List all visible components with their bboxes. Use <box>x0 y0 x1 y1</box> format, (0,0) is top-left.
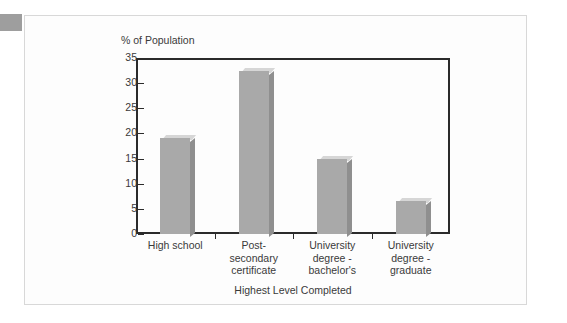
y-axis-label: % of Population <box>121 34 195 46</box>
x-category-label: High school <box>136 239 215 252</box>
bar-front-face <box>396 201 426 234</box>
bar <box>239 71 269 234</box>
y-tick-label: 25 <box>77 101 137 113</box>
y-tick-label: 30 <box>77 76 137 88</box>
y-tick-mark <box>138 234 144 235</box>
x-category-label-line: High school <box>136 239 215 252</box>
chart-card: % of Population 05101520253035 High scho… <box>24 15 527 305</box>
bar-side-face <box>269 70 274 237</box>
y-tick-mark <box>138 108 144 109</box>
y-tick-mark <box>138 209 144 210</box>
bar <box>317 159 347 234</box>
bar-front-face <box>160 138 190 234</box>
x-category-label-line: bachelor's <box>293 264 372 277</box>
bar-front-face <box>317 159 347 234</box>
bar <box>396 201 426 234</box>
bar-side-face <box>347 158 352 237</box>
y-tick-mark <box>138 133 144 134</box>
x-axis-label: Highest Level Completed <box>136 284 450 296</box>
x-category-label-line: graduate <box>372 264 451 277</box>
y-tick-mark <box>138 159 144 160</box>
y-tick-label: 35 <box>77 51 137 63</box>
y-tick-label: 10 <box>77 177 137 189</box>
x-category-label: Universitydegree -graduate <box>372 239 451 277</box>
x-category-label-line: University <box>372 239 451 252</box>
y-tick-label: 0 <box>77 227 137 239</box>
x-category-label-line: degree - <box>372 252 451 265</box>
y-tick-label: 15 <box>77 152 137 164</box>
x-category-label: Post-secondarycertificate <box>215 239 294 277</box>
bar <box>160 138 190 234</box>
x-category-label: Universitydegree -bachelor's <box>293 239 372 277</box>
x-category-label-line: University <box>293 239 372 252</box>
y-tick-mark <box>138 184 144 185</box>
bar-front-face <box>239 71 269 234</box>
y-tick-label: 20 <box>77 126 137 138</box>
x-tick-mark <box>293 232 294 239</box>
x-category-label-line: Post- <box>215 239 294 252</box>
x-category-label-line: secondary <box>215 252 294 265</box>
x-category-label-line: certificate <box>215 264 294 277</box>
corner-tab-accent <box>0 14 22 31</box>
bar-chart: % of Population 05101520253035 High scho… <box>25 16 528 306</box>
x-category-label-line: degree - <box>293 252 372 265</box>
x-tick-mark <box>372 232 373 239</box>
bar-side-face <box>426 201 431 237</box>
x-tick-mark <box>215 232 216 239</box>
y-tick-label: 5 <box>77 202 137 214</box>
y-tick-mark <box>138 83 144 84</box>
bar-side-face <box>190 138 195 237</box>
